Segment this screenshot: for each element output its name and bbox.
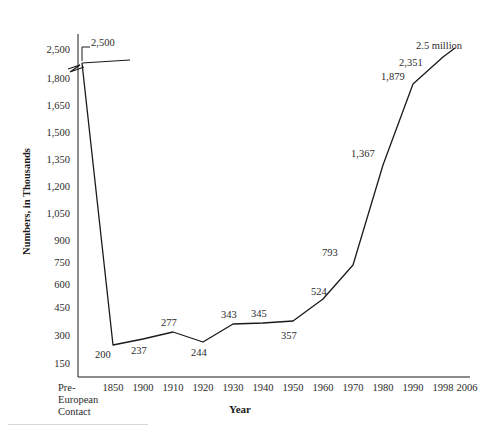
x-tick-label-line3: Contact [58, 406, 91, 417]
data-label-1930: 343 [221, 310, 237, 321]
y-tick-label: 450 [16, 303, 70, 314]
data-label-1960: 524 [311, 287, 327, 298]
line-chart: Numbers, in Thousands 2,500 1,800 1,650 … [0, 0, 479, 433]
y-tick-label: 1,800 [16, 74, 70, 85]
pre-contact-top-segment [82, 60, 130, 63]
data-label-1900: 237 [131, 346, 147, 357]
y-tick-label: 150 [16, 359, 70, 370]
data-label-1850: 200 [95, 350, 111, 361]
y-tick-label: 750 [16, 258, 70, 269]
x-axis-title: Year [180, 403, 300, 415]
data-label-1998: 2,351 [399, 58, 423, 69]
y-tick-label: 1,050 [16, 209, 70, 220]
data-label-1970: 793 [322, 248, 338, 259]
pre-contact-leader-line [82, 47, 90, 61]
data-label-1980: 1,367 [351, 149, 375, 160]
data-label-2006: 2.5 million [416, 41, 462, 52]
y-tick-label: 1,500 [16, 128, 70, 139]
data-label-1950: 357 [281, 331, 297, 342]
x-tick-label-line1: Pre- [58, 382, 76, 393]
x-tick-label-line2: European [58, 394, 98, 405]
y-tick-label: 2,500 [16, 45, 70, 56]
data-series-line [82, 48, 455, 345]
y-tick-label: 300 [16, 331, 70, 342]
data-label-1920: 244 [191, 348, 207, 359]
x-tick-label-2006: 2006 [447, 382, 479, 394]
data-label-pre-european-contact: 2,500 [91, 38, 115, 49]
data-label-1990: 1,879 [381, 72, 405, 83]
axis-break-marker [68, 65, 84, 72]
y-tick-label: 600 [16, 280, 70, 291]
data-label-1940: 345 [251, 309, 267, 320]
footer-divider [8, 424, 148, 425]
y-tick-label: 1,650 [16, 101, 70, 112]
y-tick-label: 900 [16, 236, 70, 247]
y-tick-label: 1,350 [16, 155, 70, 166]
y-tick-label: 1,200 [16, 182, 70, 193]
data-label-1910: 277 [161, 318, 177, 329]
